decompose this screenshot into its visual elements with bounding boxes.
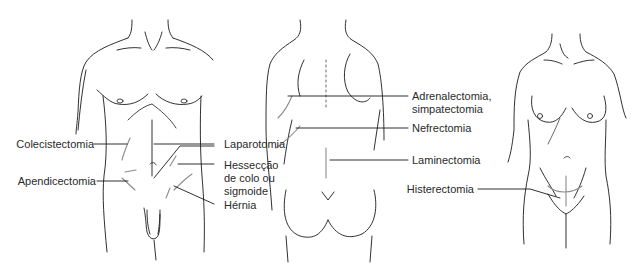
label-histerectomia: Histerectomia — [394, 183, 474, 196]
label-apendicectomia: Apendicectomia — [10, 175, 96, 188]
surgical-incisions-figure: Colecistectomia Apendicectomia Laparotom… — [0, 0, 642, 273]
anatomy-drawings — [0, 0, 642, 273]
label-colecistectomia: Colecistectomia — [14, 138, 94, 151]
label-hesseccao-line3: sigmoide — [224, 185, 268, 198]
label-laparotomia: Laparotomia — [224, 138, 285, 151]
label-nefrectomia: Nefrectomia — [412, 122, 471, 135]
label-hesseccao-line1: Hessecção — [224, 159, 278, 172]
label-hernia: Hérnia — [224, 199, 256, 212]
label-laminectomia: Laminectomia — [412, 154, 480, 167]
label-adrenalectomia-line1: Adrenalectomia, — [412, 90, 492, 103]
figure-caption-cropped — [8, 266, 638, 273]
label-hesseccao-line2: de colo ou — [224, 172, 275, 185]
back-torso — [266, 20, 408, 262]
female-front-torso — [478, 34, 626, 248]
label-adrenalectomia-line2: simpatectomia — [412, 103, 483, 116]
male-front-torso — [76, 20, 214, 260]
